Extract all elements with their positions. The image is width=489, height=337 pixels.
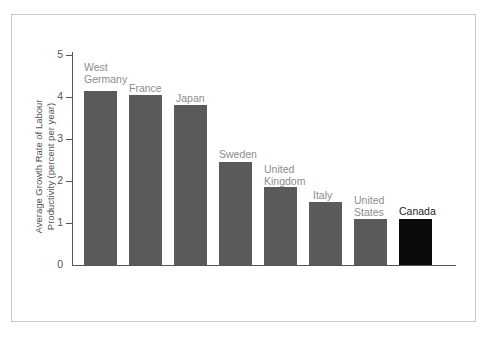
bar-west-germany	[84, 91, 117, 265]
bar-label-sweden: Sweden	[219, 149, 257, 161]
chart-figure: Average Growth Rate of Labour Productivi…	[0, 0, 489, 337]
y-tick-label: 2	[50, 175, 63, 186]
bar-label-canada: Canada	[399, 206, 436, 218]
bar-france	[129, 95, 162, 265]
bar-label-west-germany: West Germany	[84, 62, 127, 85]
y-tick-label: 5	[50, 49, 63, 60]
y-tick-label: 0	[50, 259, 63, 270]
plot-area: Average Growth Rate of Labour Productivi…	[0, 0, 489, 337]
y-tick-mark	[66, 223, 72, 224]
bar-label-italy: Italy	[313, 190, 332, 202]
bar-japan	[174, 105, 207, 265]
y-tick-label: 1	[50, 217, 63, 228]
bar-united-states	[354, 219, 387, 265]
bar-label-united-states: United States	[354, 195, 384, 218]
y-axis-line	[72, 52, 73, 266]
y-tick-mark	[66, 181, 72, 182]
x-axis-line	[72, 265, 456, 266]
y-tick-mark	[66, 97, 72, 98]
y-tick-label: 4	[50, 91, 63, 102]
bar-united-kingdom	[264, 187, 297, 265]
bar-canada	[399, 219, 432, 265]
bar-label-france: France	[129, 83, 162, 95]
bar-sweden	[219, 162, 252, 265]
bar-label-japan: Japan	[176, 93, 205, 105]
y-tick-label: 3	[50, 133, 63, 144]
y-tick-mark	[66, 139, 72, 140]
y-tick-mark	[66, 55, 72, 56]
bar-label-united-kingdom: United Kingdom	[264, 164, 305, 187]
bar-italy	[309, 202, 342, 265]
